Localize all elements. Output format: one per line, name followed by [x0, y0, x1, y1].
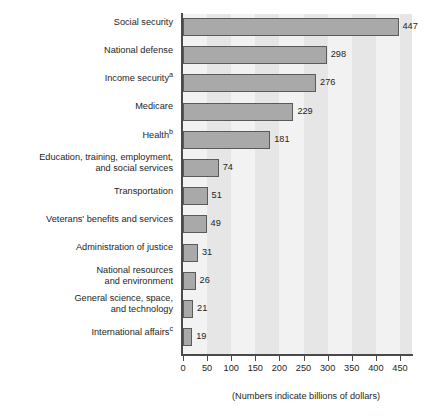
x-axis-tick-label: 400	[368, 363, 383, 374]
category-footnote-marker: b	[169, 126, 173, 135]
bar	[183, 300, 193, 318]
bar	[183, 272, 196, 290]
bar-row: 447	[183, 18, 442, 36]
bar-row: 298	[183, 46, 442, 64]
bar-value-label: 181	[274, 134, 289, 145]
category-label: Administration of justice	[1, 242, 173, 253]
horizontal-bar-chart: Social securityNational defenseIncome se…	[0, 0, 442, 416]
x-axis-tick-label: 100	[224, 363, 239, 374]
bar-value-label: 21	[197, 303, 207, 314]
bar-row: 19	[183, 328, 442, 346]
x-axis-tick	[231, 356, 232, 361]
bar-value-label: 49	[211, 218, 221, 229]
bar-row: 26	[183, 272, 442, 290]
bar-value-label: 26	[200, 275, 210, 286]
bar-value-label: 51	[212, 190, 222, 201]
category-label: General science, space,and technology	[1, 293, 173, 314]
category-label: International affairsc	[1, 327, 173, 338]
chart-caption: (Numbers indicate billions of dollars)	[183, 391, 429, 402]
x-axis-tick	[279, 356, 280, 361]
bar-row: 181	[183, 131, 442, 149]
category-label: Social security	[1, 17, 173, 28]
x-axis-line	[181, 354, 413, 356]
x-axis-tick-label: 50	[202, 363, 212, 374]
category-label: Healthb	[1, 130, 173, 141]
category-label: National resourcesand environment	[1, 265, 173, 286]
x-axis-tick	[352, 356, 353, 361]
x-axis-tick-label: 250	[296, 363, 311, 374]
x-axis-tick-label: 300	[320, 363, 335, 374]
category-label: Medicare	[1, 101, 173, 112]
bar-row: 49	[183, 215, 442, 233]
x-axis-tick-label: 0	[180, 363, 185, 374]
category-label: National defense	[1, 45, 173, 56]
bar-value-label: 447	[403, 21, 418, 32]
bar	[183, 159, 219, 177]
x-axis-tick	[400, 356, 401, 361]
bar	[183, 328, 192, 346]
bar-value-label: 19	[196, 331, 206, 342]
bar	[183, 46, 327, 64]
bar	[183, 103, 293, 121]
bar-row: 74	[183, 159, 442, 177]
bar-row: 229	[183, 103, 442, 121]
category-label: Transportation	[1, 186, 173, 197]
bar-row: 51	[183, 187, 442, 205]
bar	[183, 187, 208, 205]
bar	[183, 131, 270, 149]
x-axis-tick	[207, 356, 208, 361]
x-axis-tick-label: 350	[344, 363, 359, 374]
x-axis-tick	[255, 356, 256, 361]
x-axis-tick-label: 450	[392, 363, 407, 374]
category-label: Education, training, employment,and soci…	[1, 152, 173, 173]
category-label: Income securitya	[1, 73, 173, 84]
category-footnote-marker: a	[169, 70, 173, 79]
category-label: Veterans' benefits and services	[1, 214, 173, 225]
category-footnote-marker: c	[169, 324, 173, 333]
bar-row: 31	[183, 244, 442, 262]
bar-value-label: 298	[331, 49, 346, 60]
bar-value-label: 74	[223, 162, 233, 173]
x-axis-tick-label: 200	[272, 363, 287, 374]
x-axis-tick	[376, 356, 377, 361]
x-axis-tick	[183, 356, 184, 361]
bar-value-label: 276	[320, 77, 335, 88]
x-axis-tick	[328, 356, 329, 361]
bar-row: 276	[183, 74, 442, 92]
bar-layer: 44729827622918174514931262119	[183, 14, 442, 354]
bar	[183, 74, 316, 92]
x-axis-tick-label: 150	[248, 363, 263, 374]
x-axis-tick	[304, 356, 305, 361]
bar-value-label: 31	[202, 247, 212, 258]
bar-value-label: 229	[297, 106, 312, 117]
bar	[183, 215, 207, 233]
bar-row: 21	[183, 300, 442, 318]
bar	[183, 18, 399, 36]
bar	[183, 244, 198, 262]
